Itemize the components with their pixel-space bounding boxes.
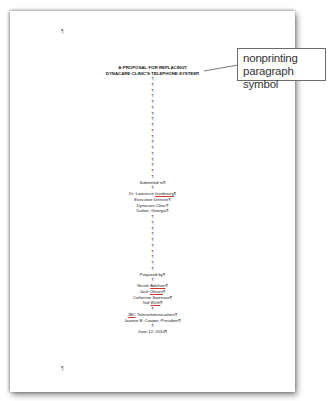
company-abbrev: JBC bbox=[128, 312, 136, 317]
author-first-name: Ted· bbox=[142, 300, 150, 305]
author-last-name: Olesen bbox=[150, 289, 163, 294]
title-page-content: A·PROPOSAL·FOR·REPLACING¶ DYNACARE·CLINI… bbox=[10, 65, 295, 335]
recipient-name-suffix: ¶ bbox=[174, 191, 176, 196]
company-name-rest: ·Telecommunications¶ bbox=[136, 312, 178, 317]
callout-text-line-2: paragraph symbol bbox=[243, 65, 321, 91]
author-last-name: Wirth bbox=[151, 300, 161, 305]
author-last-name: Adelson bbox=[150, 283, 165, 288]
author-first-name: Nicole· bbox=[137, 283, 150, 288]
author-suffix: ¶ bbox=[160, 300, 162, 305]
top-pilcrow: ¶ bbox=[61, 29, 64, 34]
author-suffix: ¶ bbox=[163, 289, 165, 294]
callout-text-line-1: nonprinting bbox=[243, 52, 321, 65]
bottom-pilcrow: ¶ bbox=[61, 366, 64, 371]
author-first-name: Jack· bbox=[140, 289, 150, 294]
document-date: June·12,·2014¶ bbox=[10, 329, 295, 335]
author-full-name: Catherine·Swenson¶ bbox=[133, 295, 172, 300]
recipient-last-name: Isenbourg bbox=[155, 191, 174, 196]
recipient-name-prefix: Dr.·Lawrence· bbox=[129, 191, 155, 196]
author-suffix: ¶ bbox=[165, 283, 167, 288]
callout-box: nonprinting paragraph symbol bbox=[237, 48, 326, 81]
